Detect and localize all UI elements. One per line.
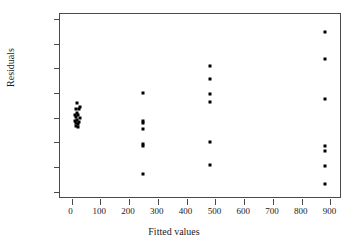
- x-axis-title: Fitted values: [0, 226, 348, 237]
- data-point: [324, 58, 327, 61]
- data-point: [142, 92, 145, 95]
- x-tick: [244, 199, 245, 205]
- x-tick: [330, 199, 331, 205]
- data-point: [209, 77, 212, 80]
- y-tick: [54, 118, 60, 119]
- y-tick: [54, 93, 60, 94]
- data-point: [324, 98, 327, 101]
- x-tick-label: 600: [236, 207, 250, 216]
- y-tick: [54, 142, 60, 143]
- x-tick-label: 200: [121, 207, 135, 216]
- y-tick: [54, 19, 60, 20]
- x-tick: [302, 199, 303, 205]
- data-point: [324, 183, 327, 186]
- x-tick-label: 900: [323, 207, 337, 216]
- x-tick-label: 300: [150, 207, 164, 216]
- data-point: [209, 64, 212, 67]
- y-axis-title: Residuals: [5, 23, 16, 113]
- data-point: [209, 163, 212, 166]
- y-tick: [54, 68, 60, 69]
- data-point: [142, 122, 145, 125]
- plot-area: [59, 13, 341, 198]
- data-point: [324, 144, 327, 147]
- data-point: [75, 101, 78, 104]
- x-tick-label: 100: [93, 207, 107, 216]
- data-point: [142, 144, 145, 147]
- x-tick: [72, 199, 73, 205]
- data-point: [142, 127, 145, 130]
- data-point: [324, 149, 327, 152]
- data-point: [77, 125, 80, 128]
- residual-plot-figure: -30-20-10010203040 010020030040050060070…: [0, 0, 348, 245]
- data-point: [209, 101, 212, 104]
- x-tick: [187, 199, 188, 205]
- x-tick-label: 800: [294, 207, 308, 216]
- x-tick-label: 0: [68, 207, 73, 216]
- x-tick-label: 400: [179, 207, 193, 216]
- data-point: [324, 165, 327, 168]
- data-point: [142, 172, 145, 175]
- x-tick: [158, 199, 159, 205]
- y-tick: [54, 192, 60, 193]
- data-point: [209, 140, 212, 143]
- x-tick: [129, 199, 130, 205]
- data-point: [324, 31, 327, 34]
- x-tick-label: 500: [208, 207, 222, 216]
- data-point: [209, 93, 212, 96]
- x-tick: [215, 199, 216, 205]
- y-tick: [54, 44, 60, 45]
- y-tick: [54, 167, 60, 168]
- x-tick: [273, 199, 274, 205]
- x-tick-label: 700: [265, 207, 279, 216]
- x-tick: [100, 199, 101, 205]
